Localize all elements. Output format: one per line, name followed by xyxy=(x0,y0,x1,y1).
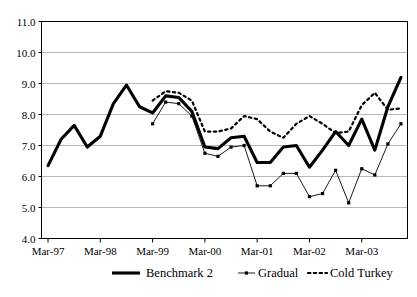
series-marker xyxy=(216,155,219,158)
x-axis-tick-labels: Mar-97Mar-98Mar-99Mar-00Mar-01Mar-02Mar-… xyxy=(32,245,379,257)
x-tick-label: Mar-00 xyxy=(189,245,222,257)
legend-label-benchmark-2: Benchmark 2 xyxy=(146,266,213,280)
legend-label-gradual: Gradual xyxy=(258,266,299,280)
series-marker xyxy=(256,184,259,187)
y-axis-tick-labels: 4.05.06.07.08.09.010.011.0 xyxy=(16,16,41,245)
chart-legend: Benchmark 2GradualCold Turkey xyxy=(112,266,394,280)
y-tick-label: 6.0 xyxy=(22,171,36,183)
series-marker xyxy=(269,184,272,187)
legend-marker-gradual xyxy=(245,271,248,274)
series-marker xyxy=(373,173,376,176)
y-tick-label: 7.0 xyxy=(22,140,36,152)
x-tick-label: Mar-98 xyxy=(84,245,117,257)
data-series-layer xyxy=(48,77,403,204)
y-tick-label: 11.0 xyxy=(17,16,36,28)
series-marker xyxy=(386,142,389,145)
series-marker xyxy=(151,122,154,125)
series-marker xyxy=(282,172,285,175)
x-tick-label: Mar-97 xyxy=(32,245,65,257)
series-marker xyxy=(177,102,180,105)
x-tick-label: Mar-99 xyxy=(136,245,169,257)
series-marker xyxy=(295,172,298,175)
y-tick-label: 10.0 xyxy=(16,47,36,59)
series-marker xyxy=(347,201,350,204)
x-tick-label: Mar-02 xyxy=(293,245,326,257)
series-marker xyxy=(190,114,193,117)
series-marker xyxy=(360,167,363,170)
series-marker xyxy=(308,195,311,198)
series-marker xyxy=(164,101,167,104)
y-tick-label: 4.0 xyxy=(22,233,36,245)
line-chart: 4.05.06.07.08.09.010.011.0 Mar-97Mar-98M… xyxy=(0,0,417,297)
y-tick-label: 9.0 xyxy=(22,78,36,90)
series-marker xyxy=(203,152,206,155)
grid-lines xyxy=(42,22,408,208)
series-marker xyxy=(321,192,324,195)
series-marker xyxy=(399,122,402,125)
series-line-benchmark-2 xyxy=(48,77,401,167)
chart-container: 4.05.06.07.08.09.010.011.0 Mar-97Mar-98M… xyxy=(0,0,417,297)
x-tick-label: Mar-01 xyxy=(241,245,274,257)
y-tick-label: 5.0 xyxy=(22,202,36,214)
x-axis-tick-marks xyxy=(48,239,362,243)
x-tick-label: Mar-03 xyxy=(345,245,378,257)
series-marker xyxy=(229,145,232,148)
legend-label-cold-turkey: Cold Turkey xyxy=(330,266,394,280)
y-tick-label: 8.0 xyxy=(22,109,36,121)
series-marker xyxy=(334,169,337,172)
series-marker xyxy=(243,144,246,147)
